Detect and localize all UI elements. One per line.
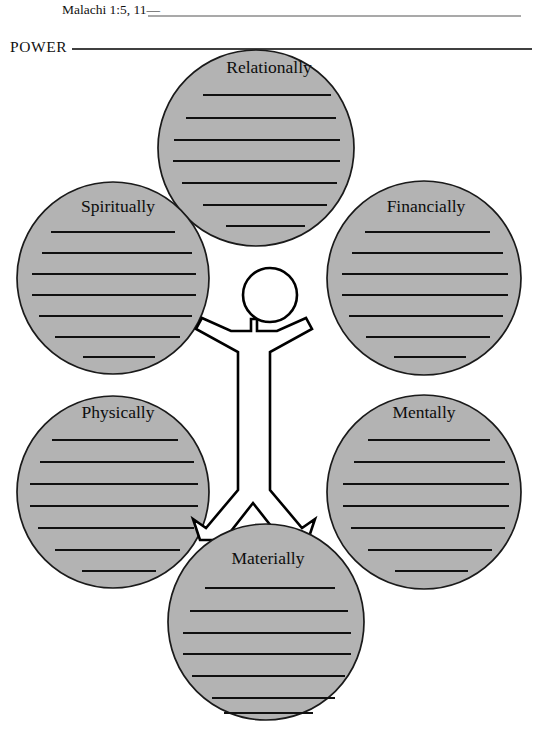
- bubble-materially-label: Materially: [232, 548, 305, 568]
- bubble-financially[interactable]: Financially: [327, 181, 521, 375]
- bubble-relationally-label: Relationally: [226, 57, 312, 77]
- bubble-spiritually-label: Spiritually: [81, 196, 155, 216]
- bubble-mentally-label: Mentally: [392, 402, 455, 422]
- bubble-mentally-circle: [327, 395, 521, 589]
- scripture-reference: Malachi 1:5, 11—: [62, 2, 161, 17]
- bubble-financially-label: Financially: [387, 196, 466, 216]
- bubble-mentally[interactable]: Mentally: [327, 395, 521, 589]
- person-body: [193, 318, 315, 540]
- bubble-spiritually[interactable]: Spiritually: [17, 182, 209, 374]
- person-figure: [193, 268, 315, 540]
- bubble-physically[interactable]: Physically: [17, 396, 209, 588]
- section-label: POWER: [10, 38, 67, 55]
- bubble-physically-label: Physically: [82, 402, 155, 422]
- bubble-materially[interactable]: Materially: [168, 524, 364, 720]
- person-head: [243, 268, 297, 322]
- bubble-physically-circle: [17, 396, 209, 588]
- header: Malachi 1:5, 11— POWER: [10, 2, 532, 55]
- worksheet-page: Malachi 1:5, 11— POWER Relationally Spir…: [0, 0, 536, 744]
